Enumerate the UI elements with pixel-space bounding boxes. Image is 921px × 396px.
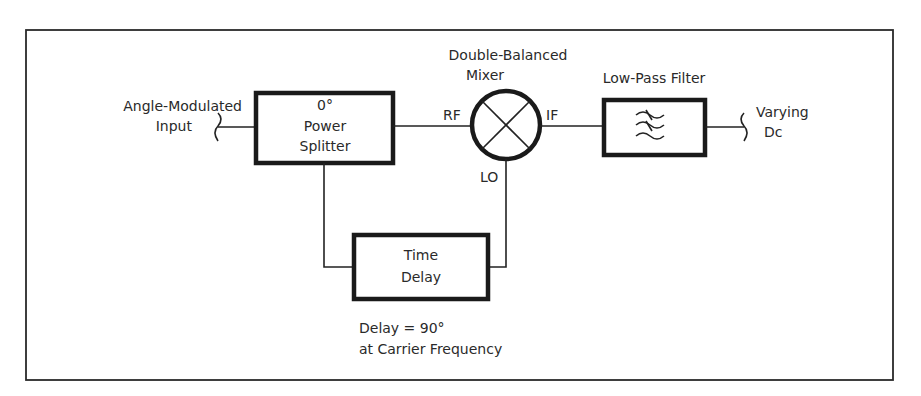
wire-splitter-to-delay [324,163,353,267]
filter-label: Low-Pass Filter [603,70,706,86]
output-label-line1: Varying [756,104,809,120]
time-delay-block: Time Delay [354,235,488,299]
delay-line1: Time [403,247,438,263]
power-splitter-block: 0° Power Splitter [256,93,393,163]
mixer-label-line2: Mixer [466,67,504,83]
mixer-label-line1: Double-Balanced [449,47,568,63]
splitter-line3: Splitter [300,138,351,154]
double-balanced-mixer-icon [472,91,540,159]
low-pass-filter-block [604,100,705,155]
input-label-line2: Input [156,118,193,134]
splitter-line2: Power [304,118,347,134]
input-label-line1: Angle-Modulated [123,98,242,114]
mixer-port-rf: RF [443,107,461,123]
delay-note-line2: at Carrier Frequency [359,341,502,357]
output-label-line2: Dc [764,124,782,140]
splitter-line1: 0° [317,97,333,113]
diagram-frame [26,30,893,380]
delay-note-line1: Delay = 90° [359,320,445,336]
mixer-port-lo: LO [480,169,498,185]
delay-line2: Delay [401,269,441,285]
mixer-port-if: IF [546,107,558,123]
fm-discriminator-diagram: Angle-Modulated Input 0° Power Splitter … [0,0,921,396]
